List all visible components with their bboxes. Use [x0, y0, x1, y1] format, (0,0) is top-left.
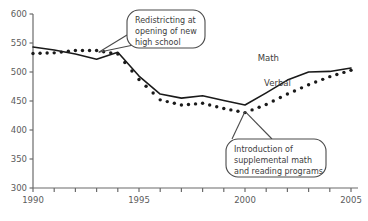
verbal-data-point [342, 71, 345, 74]
callout-text-line: Introduction of [234, 145, 293, 154]
verbal-data-point [201, 102, 204, 105]
chart-container: 300350400450500550600 1990199520002005 M… [0, 0, 368, 221]
verbal-data-point [307, 83, 310, 86]
verbal-data-point [81, 49, 84, 52]
verbal-data-point [95, 49, 98, 52]
verbal-data-point [279, 96, 282, 99]
verbal-data-point [250, 108, 253, 111]
verbal-data-point [180, 103, 183, 106]
verbal-data-point [349, 69, 352, 72]
verbal-data-point [74, 49, 77, 52]
verbal-data-point [109, 51, 112, 54]
x-tick-label: 1990 [22, 195, 44, 205]
y-tick-label: 400 [11, 125, 27, 135]
x-axis-ticks [33, 188, 351, 192]
verbal-data-point [130, 69, 133, 72]
verbal-data-point [45, 51, 48, 54]
verbal-data-point [116, 52, 119, 55]
callout-text-line: high school [135, 38, 181, 47]
y-tick-label: 600 [11, 9, 27, 19]
x-axis-tick-labels: 1990199520002005 [22, 195, 362, 205]
series-verbal [31, 49, 352, 114]
verbal-data-point [38, 52, 41, 55]
redistricting-callout: Redistricting atopening of newhigh schoo… [99, 10, 205, 52]
verbal-data-point [293, 89, 296, 92]
verbal-data-point [257, 105, 260, 108]
y-tick-label: 350 [11, 154, 27, 164]
verbal-data-point [321, 78, 324, 81]
verbal-data-point [187, 103, 190, 106]
verbal-data-point [328, 75, 331, 78]
verbal-data-point [300, 86, 303, 89]
verbal-data-point [88, 49, 91, 52]
verbal-data-point [229, 108, 232, 111]
y-tick-label: 450 [11, 96, 27, 106]
y-tick-label: 550 [11, 38, 27, 48]
verbal-data-point [208, 103, 211, 106]
verbal-data-point [60, 50, 63, 53]
line-chart: 300350400450500550600 1990199520002005 M… [0, 0, 368, 221]
x-tick-label: 2000 [234, 195, 256, 205]
verbal-data-point [53, 51, 56, 54]
callout-tail [245, 111, 272, 139]
verbal-data-point [159, 98, 162, 101]
verbal-data-point [194, 102, 197, 105]
callout-text-line: and reading programs [234, 167, 323, 176]
verbal-data-point [173, 102, 176, 105]
y-tick-label: 500 [11, 67, 27, 77]
y-tick-label: 300 [11, 183, 27, 193]
series-label-verbal: Verbal [264, 78, 291, 88]
x-tick-label: 1995 [128, 195, 150, 205]
callout-text-line: supplemental math [234, 156, 312, 165]
math-line [33, 47, 351, 105]
x-tick-label: 2005 [340, 195, 362, 205]
annotation-callouts: Redistricting atopening of newhigh schoo… [99, 10, 326, 177]
verbal-data-point [144, 85, 147, 88]
verbal-data-point [272, 99, 275, 102]
callout-text-line: opening of new [135, 27, 197, 36]
verbal-data-point [67, 50, 70, 53]
verbal-data-point [215, 105, 218, 108]
y-axis-tick-labels: 300350400450500550600 [11, 9, 27, 193]
verbal-data-point [265, 103, 268, 106]
series-math [33, 47, 351, 105]
series-label-math: Math [258, 53, 279, 63]
verbal-data-point [123, 61, 126, 64]
verbal-data-point [137, 78, 140, 81]
supplemental-programs-callout: Introduction ofsupplemental mathand read… [226, 111, 326, 177]
verbal-data-point [222, 107, 225, 110]
verbal-data-point [236, 110, 239, 113]
series-inline-labels: MathVerbal [258, 53, 291, 88]
verbal-data-point [166, 100, 169, 103]
callout-tail [232, 111, 245, 139]
verbal-data-point [314, 80, 317, 83]
verbal-data-point [31, 52, 34, 55]
callout-text-line: Redistricting at [135, 16, 196, 25]
verbal-data-point [151, 91, 154, 94]
verbal-data-point [335, 73, 338, 76]
verbal-data-point [286, 92, 289, 95]
